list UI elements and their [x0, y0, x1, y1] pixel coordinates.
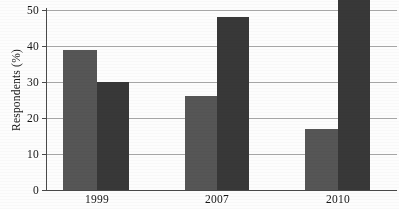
bar-2007-series-1 [185, 96, 217, 190]
y-axis-line [46, 8, 47, 191]
y-tick-label-0: 0 [13, 185, 39, 197]
plot-area [47, 0, 397, 190]
x-axis-line [46, 190, 397, 191]
y-tick-mark-10 [42, 154, 47, 155]
x-tick-label-2007: 2007 [177, 193, 257, 207]
y-tick-mark-0 [42, 190, 47, 191]
bar-chart-figure: 50 40 30 20 10 0 1999 2007 2010 Responde… [0, 0, 399, 209]
bar-2007-series-2 [217, 17, 249, 190]
y-tick-mark-40 [42, 46, 47, 47]
y-tick-mark-20 [42, 118, 47, 119]
y-tick-label-50: 50 [13, 5, 39, 17]
y-tick-mark-30 [42, 82, 47, 83]
bar-2010-series-2 [338, 0, 370, 190]
bar-2010-series-1 [305, 129, 338, 190]
bar-1999-series-1 [63, 50, 97, 190]
bar-1999-series-2 [97, 82, 129, 190]
x-tick-label-2010: 2010 [298, 193, 378, 207]
y-axis-title: Respondents (%) [10, 20, 22, 160]
x-tick-label-1999: 1999 [57, 193, 137, 207]
y-tick-mark-50 [42, 10, 47, 11]
